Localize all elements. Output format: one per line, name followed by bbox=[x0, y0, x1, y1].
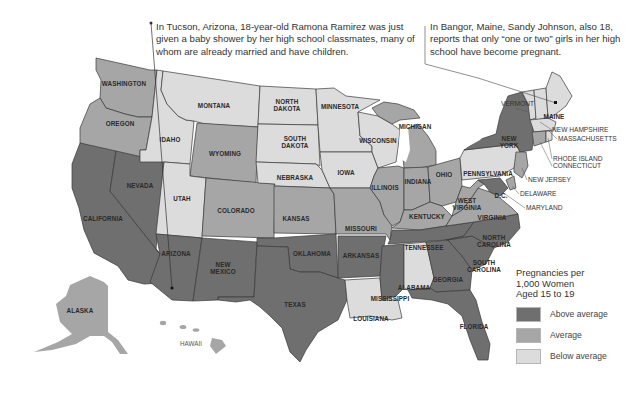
label-arkansas: ARKANSAS bbox=[343, 252, 379, 259]
label-arizona: ARIZONA bbox=[161, 250, 191, 257]
legend-title-line1: Pregnancies per bbox=[516, 268, 636, 279]
label-michigan: MICHIGAN bbox=[399, 123, 432, 130]
legend-item-below: Below average bbox=[516, 346, 636, 367]
label-tennessee: TENNESSEE bbox=[404, 244, 443, 251]
label-kentucky: KENTUCKY bbox=[409, 213, 445, 220]
label-virginia: VIRGINIA bbox=[478, 214, 507, 221]
label-missouri: MISSOURI bbox=[345, 225, 377, 232]
state-hawaii[interactable] bbox=[160, 321, 226, 354]
legend-label-above: Above average bbox=[550, 309, 608, 319]
label-idaho: IDAHO bbox=[160, 136, 181, 143]
label-california: CALIFORNIA bbox=[83, 215, 123, 222]
label-nevada: NEVADA bbox=[127, 182, 154, 189]
state-maine[interactable] bbox=[546, 72, 572, 118]
label-alabama: ALABAMA bbox=[398, 284, 431, 291]
legend-item-average: Average bbox=[516, 325, 636, 346]
legend-title-line3: Aged 15 to 19 bbox=[516, 289, 636, 300]
label-west-virginia-1: WEST bbox=[458, 197, 477, 204]
callout-tucson: In Tucson, Arizona, 18-year-old Ramona R… bbox=[156, 21, 416, 58]
state-alaska[interactable] bbox=[34, 276, 128, 354]
state-kansas[interactable] bbox=[274, 186, 336, 234]
state-new-jersey[interactable] bbox=[514, 152, 528, 178]
label-maine: MAINE bbox=[544, 113, 565, 120]
label-south-dakota-1: SOUTH bbox=[284, 135, 307, 142]
label-mississippi: MISSISSIPPI bbox=[371, 295, 410, 302]
legend-label-average: Average bbox=[550, 330, 582, 340]
label-rhode-island: RHODE ISLAND bbox=[553, 155, 603, 162]
label-indiana: INDIANA bbox=[405, 178, 432, 185]
label-south-dakota-2: DAKOTA bbox=[281, 142, 308, 149]
label-new-hampshire: NEW HAMPSHIRE bbox=[552, 126, 609, 133]
state-connecticut[interactable] bbox=[532, 131, 546, 146]
legend: Pregnancies per 1,000 Women Aged 15 to 1… bbox=[516, 268, 636, 367]
label-new-jersey: NEW JERSEY bbox=[528, 176, 571, 183]
callout-bangor: In Bangor, Maine, Sandy Johnson, also 18… bbox=[430, 21, 635, 58]
label-georgia: GEORGIA bbox=[433, 276, 464, 283]
label-north-dakota-1: NORTH bbox=[276, 98, 299, 105]
legend-label-below: Below average bbox=[550, 351, 607, 361]
label-pennsylvania: PENNSYLVANIA bbox=[463, 170, 513, 177]
label-massachusetts: MASSACHUSETTS bbox=[558, 135, 617, 142]
label-new-york-1: NEW bbox=[502, 135, 517, 142]
label-oregon: OREGON bbox=[106, 120, 135, 127]
legend-swatch-above bbox=[516, 307, 541, 322]
label-south-carolina-1: SOUTH bbox=[473, 259, 496, 266]
label-delaware: DELAWARE bbox=[520, 190, 557, 197]
label-new-mexico-1: NEW bbox=[216, 261, 231, 268]
label-new-york-2: YORK bbox=[500, 142, 519, 149]
label-oklahoma: OKLAHOMA bbox=[293, 250, 331, 257]
label-vermont: VERMONT bbox=[501, 100, 534, 107]
label-new-mexico-2: MEXICO bbox=[210, 268, 235, 275]
label-nebraska: NEBRASKA bbox=[277, 174, 314, 181]
label-florida: FLORIDA bbox=[460, 323, 489, 330]
label-washington: WASHINGTON bbox=[102, 80, 147, 87]
label-north-carolina-1: NORTH bbox=[483, 234, 506, 241]
legend-swatch-average bbox=[516, 328, 541, 343]
label-north-dakota-2: DAKOTA bbox=[273, 105, 300, 112]
legend-item-above: Above average bbox=[516, 304, 636, 325]
label-montana: MONTANA bbox=[198, 102, 231, 109]
label-wisconsin: WISCONSIN bbox=[359, 137, 397, 144]
label-illinois: ILLINOIS bbox=[371, 184, 398, 191]
label-wyoming: WYOMING bbox=[209, 150, 241, 157]
label-west-virginia-2: VIRGINIA bbox=[453, 204, 482, 211]
label-hawaii: HAWAII bbox=[180, 340, 202, 347]
label-south-carolina-2: CAROLINA bbox=[467, 266, 501, 273]
label-maryland: MARYLAND bbox=[526, 204, 563, 211]
label-connecticut: CONNECTICUT bbox=[553, 162, 601, 169]
label-minnesota: MINNESOTA bbox=[321, 103, 360, 110]
label-dc: D.C. bbox=[495, 192, 508, 199]
state-mississippi[interactable] bbox=[380, 244, 404, 300]
label-kansas: KANSAS bbox=[282, 215, 309, 222]
label-iowa: IOWA bbox=[337, 169, 355, 176]
label-louisiana: LOUISIANA bbox=[353, 315, 389, 322]
legend-title: Pregnancies per 1,000 Women Aged 15 to 1… bbox=[516, 268, 636, 300]
label-ohio: OHIO bbox=[436, 171, 453, 178]
label-colorado: COLORADO bbox=[217, 207, 255, 214]
label-alaska: ALASKA bbox=[67, 307, 94, 314]
label-north-carolina-2: CAROLINA bbox=[477, 241, 511, 248]
legend-swatch-below bbox=[516, 349, 541, 364]
label-texas: TEXAS bbox=[284, 301, 306, 308]
label-utah: UTAH bbox=[173, 195, 191, 202]
